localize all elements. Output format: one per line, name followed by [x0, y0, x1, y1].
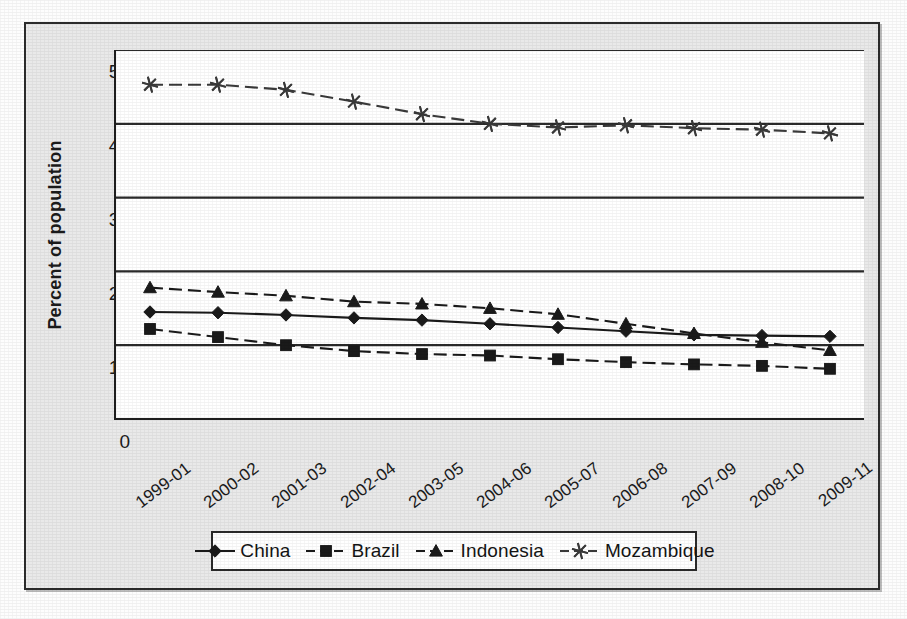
- legend-item-china[interactable]: China: [193, 540, 290, 562]
- data-point-square: [145, 324, 156, 335]
- legend-item-indonesia[interactable]: Indonesia: [414, 540, 544, 562]
- data-point-diamond: [824, 330, 836, 342]
- legend-label: Brazil: [351, 540, 399, 562]
- x-tick-label: 2002-04: [337, 458, 400, 512]
- legend-item-mozambique[interactable]: Mozambique: [558, 540, 715, 562]
- data-point-diamond: [280, 309, 292, 321]
- x-tick-label: 2000-02: [200, 458, 263, 512]
- data-point-diamond: [212, 307, 224, 319]
- data-point-square: [417, 349, 428, 360]
- data-point-square: [621, 357, 632, 368]
- data-point-square: [485, 350, 496, 361]
- x-tick-label: 1999-01: [132, 458, 195, 512]
- data-point-square: [553, 354, 564, 365]
- series-brazil: [145, 324, 836, 375]
- data-point-diamond: [416, 314, 428, 326]
- data-point-diamond: [552, 321, 564, 333]
- data-point-square: [689, 359, 700, 370]
- data-point-diamond: [144, 306, 156, 318]
- plot-svg: [116, 50, 864, 419]
- data-point-square: [349, 346, 360, 357]
- asterisk-icon: [558, 540, 602, 562]
- x-tick-label: 2001-03: [268, 458, 331, 512]
- legend-label: China: [240, 540, 290, 562]
- x-tick-label: 2008-10: [746, 458, 809, 512]
- data-point-diamond: [688, 329, 700, 341]
- triangle-icon: [414, 540, 458, 562]
- data-point-diamond: [348, 312, 360, 324]
- series-mozambique: [142, 77, 838, 142]
- x-tick-label: 2005-07: [541, 458, 604, 512]
- data-point-diamond: [484, 318, 496, 330]
- diamond-icon: [193, 540, 237, 562]
- data-point-square: [757, 360, 768, 371]
- scanned-page: ation living on less than $1.25 a day Pe…: [0, 0, 907, 619]
- x-axis-tick-labels: 1999-012000-022001-032002-042003-052004-…: [114, 420, 864, 540]
- square-icon: [304, 540, 348, 562]
- x-tick-label: 2007-09: [677, 458, 740, 512]
- data-point-diamond: [756, 329, 768, 341]
- legend-label: Indonesia: [461, 540, 544, 562]
- cut-off-caption-fragment: ation living on less than $1.25 a day: [0, 0, 907, 12]
- x-tick-label: 2009-11: [815, 458, 877, 512]
- chart-legend: ChinaBrazilIndonesiaMozambique: [211, 531, 697, 571]
- legend-label: Mozambique: [605, 540, 715, 562]
- plot-area: [114, 50, 864, 420]
- x-tick-label: 2006-08: [609, 458, 672, 512]
- data-point-diamond: [209, 545, 221, 557]
- chart-frame: Percent of population 01020304050 1999-0…: [24, 22, 880, 590]
- plot-wrapper: [114, 50, 864, 420]
- data-point-square: [213, 332, 224, 343]
- data-point-square: [825, 363, 836, 374]
- cut-off-caption-text: ation living on less than $1.25 a day: [34, 0, 270, 6]
- x-tick-label: 2004-06: [473, 458, 536, 512]
- x-tick-label: 2003-05: [405, 458, 468, 512]
- data-point-square: [281, 340, 292, 351]
- data-point-square: [321, 546, 332, 557]
- legend-item-brazil[interactable]: Brazil: [304, 540, 399, 562]
